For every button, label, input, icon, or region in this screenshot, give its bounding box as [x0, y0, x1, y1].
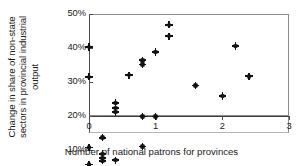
y-axis-tick-mark — [89, 14, 93, 15]
plot-area — [89, 14, 289, 116]
data-point — [153, 114, 158, 119]
x-axis-title: Number of national patrons for provinces — [0, 146, 303, 157]
x-axis-tick-mark — [222, 116, 223, 120]
data-point — [220, 94, 225, 99]
data-point — [247, 74, 252, 79]
y-axis-title-line-2: sectors in provincial industrial — [17, 16, 28, 138]
x-axis-tick-label: 0 — [77, 121, 101, 131]
data-point — [100, 159, 105, 164]
y-axis-tick-label: 20% — [56, 111, 86, 120]
y-axis-tick-label: 50% — [56, 9, 86, 18]
data-point — [113, 158, 118, 163]
y-axis-tick-labels: -10%0%10%20%30%40%50% — [54, 0, 86, 166]
x-axis-tick-labels: 0123 — [0, 121, 303, 133]
data-point — [87, 162, 92, 166]
data-point — [233, 44, 238, 49]
y-axis-title-line-3: output — [29, 64, 40, 90]
data-point — [140, 114, 145, 119]
x-axis-tick-mark — [89, 116, 90, 120]
x-axis-zero-line — [89, 116, 289, 117]
y-axis-tick-label: 30% — [56, 77, 86, 86]
data-point — [193, 83, 198, 88]
x-axis-tick-label: 3 — [277, 121, 301, 131]
x-axis-tick-label: 1 — [144, 121, 168, 131]
x-axis-tick-mark — [289, 116, 290, 120]
y-axis-tick-label: 40% — [56, 43, 86, 52]
scatter-chart-figure: Change in share of non-state sectors in … — [0, 0, 303, 166]
data-point — [100, 135, 105, 140]
y-axis-title-line-1: Change in share of non-state — [6, 17, 17, 138]
data-point — [140, 62, 145, 67]
data-point — [113, 110, 118, 115]
x-axis-tick-label: 2 — [210, 121, 234, 131]
y-axis-tick-mark — [89, 82, 93, 83]
